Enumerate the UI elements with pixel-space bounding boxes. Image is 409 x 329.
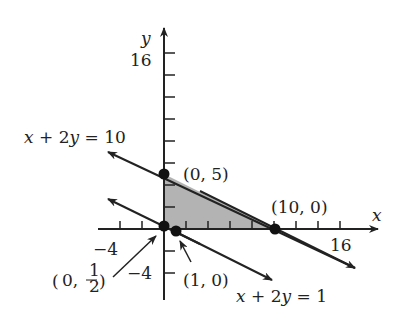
- svg-text:0,: 0,: [62, 270, 78, 290]
- point-label-1-0: (1, 0): [183, 270, 229, 290]
- y-tick-label-neg4: −4: [127, 263, 152, 283]
- y-tick-label-16: 16: [130, 50, 152, 70]
- point-label-10-0: (10, 0): [271, 197, 328, 217]
- y-ticks: [164, 53, 175, 273]
- svg-text:): ): [99, 271, 106, 291]
- x-tick-label-neg4: −4: [93, 239, 118, 259]
- equation-label-1: x + 2y = 1: [236, 286, 327, 306]
- point-0-5: [159, 169, 170, 180]
- y-axis-label: y: [140, 28, 151, 48]
- svg-text:(: (: [52, 271, 59, 291]
- x-tick-label-16: 16: [330, 235, 352, 255]
- x-ticks: [120, 221, 340, 229]
- point-label-0-half: ( 0, 1 2 ): [52, 260, 106, 296]
- pointer-arrow-1-0: [180, 241, 191, 262]
- point-label-0-5: (0, 5): [183, 164, 229, 184]
- graph-canvas: y x 16 −4 −4 16 x + 2y = 10 x + 2y = 1 (…: [0, 0, 409, 329]
- equation-label-10: x + 2y = 10: [24, 127, 126, 147]
- x-axis-label: x: [372, 205, 382, 225]
- point-10-0: [270, 224, 281, 235]
- point-1-0: [171, 226, 182, 237]
- point-0-half: [159, 221, 170, 232]
